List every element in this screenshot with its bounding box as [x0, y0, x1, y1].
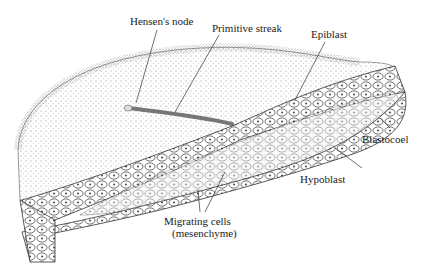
- hensens-node: [124, 105, 132, 111]
- label-epiblast: Epiblast: [311, 28, 347, 40]
- label-hensens-node: Hensen's node: [130, 15, 193, 27]
- label-primitive-streak: Primitive streak: [212, 22, 282, 34]
- embryo-diagram: Hensen's node Primitive streak Epiblast …: [0, 0, 430, 273]
- label-hypoblast: Hypoblast: [300, 173, 345, 185]
- label-blastocoel: Blastocoel: [362, 133, 408, 145]
- label-mesenchyme: (mesenchyme): [172, 227, 237, 239]
- label-migrating-cells: Migrating cells: [164, 215, 231, 227]
